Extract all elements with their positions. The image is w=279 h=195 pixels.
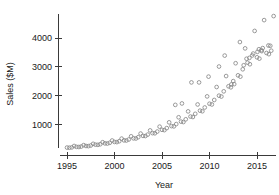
data-point — [197, 81, 201, 85]
x-axis-tick-label: 2005 — [152, 161, 172, 171]
data-point — [234, 61, 238, 65]
sales-scatter-chart: 1000200030004000Sales ($M)19952000200520… — [0, 0, 279, 195]
data-point — [201, 109, 205, 113]
x-axis-title: Year — [155, 180, 173, 190]
y-axis-tick-label: 3000 — [32, 62, 52, 72]
x-axis-tick-label: 2000 — [104, 161, 124, 171]
data-point — [129, 134, 133, 138]
data-point — [167, 120, 171, 124]
data-point — [220, 95, 224, 99]
data-point — [210, 103, 214, 107]
y-axis-tick-label: 2000 — [32, 91, 52, 101]
x-axis-tick-label: 1995 — [57, 161, 77, 171]
x-axis-tick-label: 2015 — [247, 161, 267, 171]
y-axis-title: Sales ($M) — [5, 62, 15, 106]
data-point — [186, 110, 190, 114]
data-point — [173, 103, 177, 107]
data-point — [106, 142, 110, 146]
data-point — [203, 106, 207, 110]
data-point — [238, 40, 242, 44]
data-point — [223, 54, 227, 58]
data-point — [177, 115, 181, 119]
data-point — [174, 122, 178, 126]
data-point — [98, 142, 102, 146]
data-point — [262, 18, 266, 22]
data-point — [222, 89, 226, 93]
data-point — [242, 63, 246, 67]
data-point — [253, 29, 257, 33]
data-point — [207, 75, 211, 79]
y-axis-tick-label: 4000 — [32, 33, 52, 43]
data-point — [193, 112, 197, 116]
data-point — [212, 98, 216, 102]
data-point — [269, 49, 273, 53]
data-point — [165, 126, 169, 130]
data-point — [205, 95, 209, 99]
data-point — [196, 103, 200, 107]
data-point — [215, 85, 219, 89]
data-point — [224, 74, 228, 78]
data-point — [190, 81, 194, 85]
data-point — [241, 67, 245, 71]
data-point — [243, 47, 247, 51]
data-point — [217, 65, 221, 69]
data-point — [163, 128, 167, 132]
data-point — [184, 117, 188, 121]
data-point — [272, 14, 276, 18]
plot-canvas: 1000200030004000Sales ($M)19952000200520… — [0, 0, 279, 195]
y-axis-tick-label: 1000 — [32, 120, 52, 130]
data-point — [180, 102, 184, 106]
data-point — [208, 102, 212, 106]
data-point — [217, 94, 221, 98]
data-point — [115, 140, 119, 144]
x-axis-tick-label: 2010 — [199, 161, 219, 171]
